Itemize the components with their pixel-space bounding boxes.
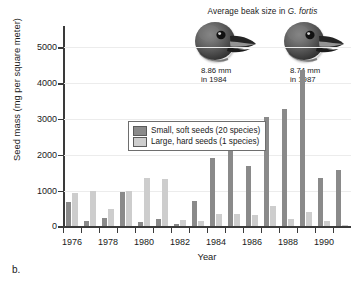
bar-large-1981 xyxy=(162,179,167,227)
y-axis-tick xyxy=(58,83,63,84)
y-axis-tick-label: 1000 xyxy=(37,186,57,196)
legend-swatch-small xyxy=(133,126,147,136)
x-axis-tick xyxy=(99,228,100,233)
x-axis-tick-label: 1986 xyxy=(242,237,262,247)
bar-large-1983 xyxy=(198,221,203,226)
bar-small-1985 xyxy=(228,149,233,226)
bar-large-1978 xyxy=(108,209,113,227)
x-axis-tick xyxy=(171,228,172,233)
x-axis-tick-label: 1978 xyxy=(98,237,118,247)
bar-large-1989 xyxy=(306,212,311,226)
x-axis-tick xyxy=(63,228,64,233)
beak-annotation-title: Average beak size in G. fortis xyxy=(175,7,350,16)
bar-small-1990 xyxy=(318,178,323,226)
bar-large-1979 xyxy=(126,191,131,226)
x-axis-tick xyxy=(315,228,316,233)
gridline xyxy=(64,119,351,120)
gridline xyxy=(64,47,351,48)
x-axis-tick xyxy=(207,228,208,233)
x-axis-tick-label: 1982 xyxy=(170,237,190,247)
gridline xyxy=(64,191,351,192)
gridline xyxy=(64,83,351,84)
y-axis-tick-label: 4000 xyxy=(37,78,57,88)
bar-large-1980 xyxy=(144,178,149,226)
bar-large-1990 xyxy=(324,221,329,226)
bar-small-1986 xyxy=(246,166,251,226)
figure-panel: Average beak size in G. fortis xyxy=(0,0,358,284)
x-axis-tick xyxy=(261,228,262,233)
x-axis-tick-label: 1980 xyxy=(134,237,154,247)
bar-small-1984 xyxy=(210,158,215,227)
legend-label-small: Small, soft seeds (20 species) xyxy=(151,126,260,135)
panel-letter: b. xyxy=(12,264,20,275)
bar-small-1980 xyxy=(138,222,143,226)
y-axis-tick-label: 2000 xyxy=(37,150,57,160)
chart-legend: Small, soft seeds (20 species)Large, har… xyxy=(128,121,266,151)
y-axis-tick xyxy=(58,155,63,156)
x-axis-tick xyxy=(297,228,298,233)
bar-large-1977 xyxy=(90,191,95,226)
x-axis-tick xyxy=(279,228,280,233)
x-axis-tick xyxy=(333,228,334,233)
legend-label-large: Large, hard seeds (1 species) xyxy=(151,137,259,146)
species-name: G. fortis xyxy=(288,7,318,16)
bar-small-1981 xyxy=(156,219,161,227)
y-axis-tick xyxy=(58,47,63,48)
x-axis-tick-label: 1984 xyxy=(206,237,226,247)
y-axis-tick-label: 5000 xyxy=(37,42,57,52)
y-axis-tick-label: 0 xyxy=(52,221,57,231)
x-axis-tick xyxy=(225,228,226,233)
bar-large-1986 xyxy=(252,215,257,226)
legend-item-small[interactable]: Small, soft seeds (20 species) xyxy=(133,125,260,136)
beak-annotation-title-text: Average beak size in xyxy=(208,7,288,16)
bar-small-1976 xyxy=(66,202,71,226)
x-axis-tick xyxy=(81,228,82,233)
bar-small-1988 xyxy=(282,109,287,226)
bar-large-1991 xyxy=(342,225,347,226)
y-axis-tick xyxy=(58,191,63,192)
x-axis-tick xyxy=(117,228,118,233)
gridline xyxy=(64,155,351,156)
bar-large-1987 xyxy=(270,206,275,226)
bar-small-1983 xyxy=(192,201,197,226)
x-axis-tick-label: 1976 xyxy=(62,237,82,247)
y-axis-line xyxy=(63,26,65,228)
x-axis-tick xyxy=(135,228,136,233)
x-axis-tick-label: 1990 xyxy=(314,237,334,247)
legend-swatch-large xyxy=(133,137,147,147)
bar-large-1988 xyxy=(288,219,293,227)
bar-small-1991 xyxy=(336,170,341,227)
bar-large-1985 xyxy=(234,214,239,227)
x-axis-tick xyxy=(243,228,244,233)
x-axis-title: Year xyxy=(63,251,351,262)
y-axis-labels: 010002000300040005000 xyxy=(0,26,57,228)
plot-area: 19761978198019821984198619881990 Small, … xyxy=(63,26,351,228)
bar-small-1977 xyxy=(84,221,89,226)
x-axis-tick xyxy=(189,228,190,233)
y-axis-tick-label: 3000 xyxy=(37,114,57,124)
bar-large-1976 xyxy=(72,193,77,226)
x-axis-tick xyxy=(153,228,154,233)
bar-small-1982 xyxy=(174,224,179,227)
bar-large-1984 xyxy=(216,214,221,227)
legend-item-large[interactable]: Large, hard seeds (1 species) xyxy=(133,136,260,147)
bar-large-1982 xyxy=(180,220,185,226)
y-axis-tick xyxy=(58,119,63,120)
bar-small-1978 xyxy=(102,218,107,226)
x-axis-tick-label: 1988 xyxy=(278,237,298,247)
bar-small-1989 xyxy=(300,70,305,227)
bar-small-1979 xyxy=(120,192,125,226)
